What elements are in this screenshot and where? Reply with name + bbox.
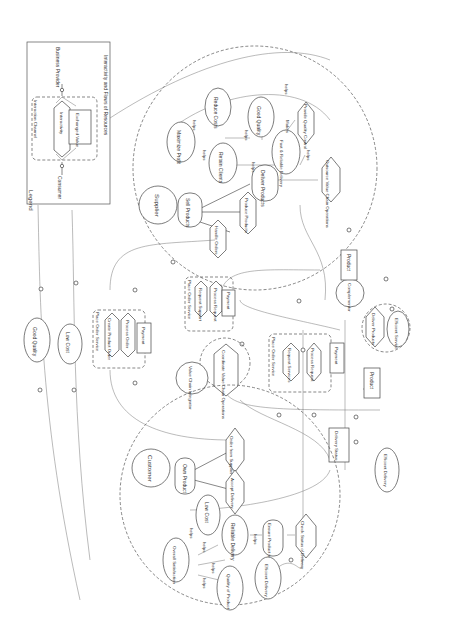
customer-elements: Own Product Order from Supplier Accept D… — [163, 428, 316, 610]
good-quality-label: Good Quality — [256, 106, 262, 136]
helps-link-2: helps — [202, 150, 207, 161]
helps-link-3: helps — [244, 130, 249, 141]
retain-clients-label: Retain Clients — [218, 152, 224, 184]
legend-provider: Business Provider — [55, 47, 61, 88]
process-order-label: Process Order — [125, 320, 130, 349]
payment-right-label: Payment — [334, 347, 339, 365]
produce-products-label: Produce Products — [244, 198, 249, 234]
overall-satisfaction-label: Overall Satisfaction — [172, 546, 177, 584]
own-product-label: Own Product — [182, 464, 188, 494]
place-order-service-right: Place Order Service Request Services Pro… — [269, 334, 344, 392]
delivery-status-label: Delivery Status — [334, 431, 339, 461]
low-cost-dependum-label: Low Cost — [65, 332, 71, 353]
legend-value: Exchanged Value — [75, 113, 80, 148]
good-quality-dependum-label: Good Quality — [32, 327, 38, 357]
helps-link-c1: helps — [189, 528, 194, 539]
task-check-status[interactable] — [296, 514, 316, 558]
legend-caption: Interactivity and Flows of Resources — [103, 55, 109, 136]
order-from-supplier-label: Order from Supplier — [229, 436, 234, 475]
istar-diagram: Legend Interactivity and Flows of Resour… — [0, 0, 452, 618]
helps-link-c5: helps — [253, 534, 258, 545]
pos-middle-title: Place Order Service — [187, 280, 192, 320]
helps-link-4: helps — [251, 162, 256, 173]
request-services-label: Request Services — [287, 348, 292, 383]
helps-link-6: helps — [284, 84, 289, 95]
helps-link-5: helps — [306, 150, 311, 161]
helps-link-c3: helps — [211, 563, 216, 574]
check-status-label: Check Status of Delivery — [300, 521, 305, 570]
accept-delivery-label: Accept Delivery — [230, 478, 235, 509]
efficient-service-label: Efficient Service — [394, 318, 399, 350]
pos-right-boundary — [269, 334, 331, 392]
helps-link-c4: helps — [202, 578, 207, 589]
maximize-profit-label: Maximize Profit — [176, 130, 182, 165]
helps-link-c2: helps — [202, 542, 207, 553]
task-outsource[interactable] — [322, 157, 340, 202]
actor-complementor-label: Complementor — [347, 283, 352, 312]
provide-qc-label: Provide Quality Control — [303, 104, 308, 149]
request-support-label: Request Support — [198, 288, 203, 322]
process-request-right-label: Process Request — [310, 348, 315, 382]
handle-orders-label: Handle Orders — [214, 226, 219, 255]
legend-interactivity: Interactivity — [59, 112, 64, 135]
quality-of-product-label: Quality of Product — [226, 574, 231, 610]
payment-middle-label: Payment — [226, 292, 231, 310]
payment-left-label: Payment — [141, 327, 146, 345]
supplier-elements: Maximize Profit Reduce Costs Retain Clie… — [167, 84, 340, 258]
deliver-products-label: Deliver Products — [260, 170, 266, 207]
efficient-delivery-dependum-label: Efficient Delivery — [383, 454, 388, 487]
goal-ensure-on-the-way[interactable] — [263, 520, 283, 556]
outsource-label: Outsource Value Chain Operations — [325, 160, 330, 229]
reduce-costs-label: Reduce Costs — [213, 97, 219, 129]
place-order-service-left: Place Order Service Create Product Order… — [93, 310, 151, 368]
actor-integrator-label: Value Chain Integrator — [188, 366, 193, 410]
efficient-delivery-label: Efficient Delivery — [264, 564, 269, 597]
place-order-service-middle: Place Order Service Request Support Proc… — [185, 277, 235, 331]
low-cost-flow — [72, 210, 90, 560]
product-1-label: Product — [346, 254, 352, 272]
reliable-delivery-label: Reliable Delivery — [230, 523, 236, 561]
legend: Legend Interactivity and Flows of Resour… — [27, 42, 110, 211]
legend-title: Legend — [28, 190, 35, 211]
pos-left-title: Place Order Service — [95, 312, 100, 352]
complementor-deliver-label: Deliver Products — [371, 313, 376, 346]
product-2-label: Product — [369, 372, 375, 390]
actor-supplier-label: Supplier — [154, 194, 161, 217]
sell-products-label: Sell Products — [185, 198, 191, 228]
legend-consumer: Consumer — [57, 176, 63, 199]
good-quality-flow — [38, 205, 80, 600]
fast-reliable-label: Fast & Reliable Delivery — [279, 140, 284, 188]
low-cost-label: Low Cost — [204, 502, 210, 523]
create-order-label: Create Product Order — [107, 318, 112, 361]
process-request-middle-label: Process Request — [213, 288, 218, 322]
helps-link-1: helps — [192, 120, 197, 131]
pos-right-title: Place Order Service — [271, 337, 276, 377]
task-order-from-supplier[interactable] — [226, 428, 244, 472]
softgoal-fast-reliable-delivery[interactable] — [272, 130, 300, 174]
actor-customer-label: Customer — [147, 455, 154, 482]
makes-link: Makes — [285, 120, 290, 134]
legend-channel-label: Interaction Channel — [33, 100, 38, 138]
